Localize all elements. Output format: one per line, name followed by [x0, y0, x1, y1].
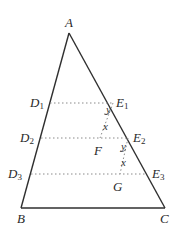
vertex-label-c: C [160, 212, 169, 225]
point-label-e1: E1 [116, 96, 128, 111]
point-label-d2: D2 [20, 131, 34, 146]
vertex-label-a: A [65, 16, 73, 29]
point-label-f: F [94, 144, 102, 157]
vertex-label-b: B [17, 212, 25, 225]
angle-label-x-f: x [103, 121, 108, 132]
diagram-canvas [0, 0, 181, 235]
angle-label-y-e1: y [106, 104, 111, 115]
point-label-d1: D1 [30, 96, 44, 111]
triangle-diagram: A B C D1 D2 D3 E1 E2 E3 F G y x y x [0, 0, 181, 235]
point-label-e2: E2 [133, 131, 145, 146]
side-ab [21, 33, 69, 208]
point-label-d3: D3 [8, 167, 22, 182]
point-label-g: G [113, 180, 122, 193]
angle-label-x-g: x [121, 157, 126, 168]
point-label-e3: E3 [152, 167, 164, 182]
angle-label-y-e2: y [121, 141, 126, 152]
